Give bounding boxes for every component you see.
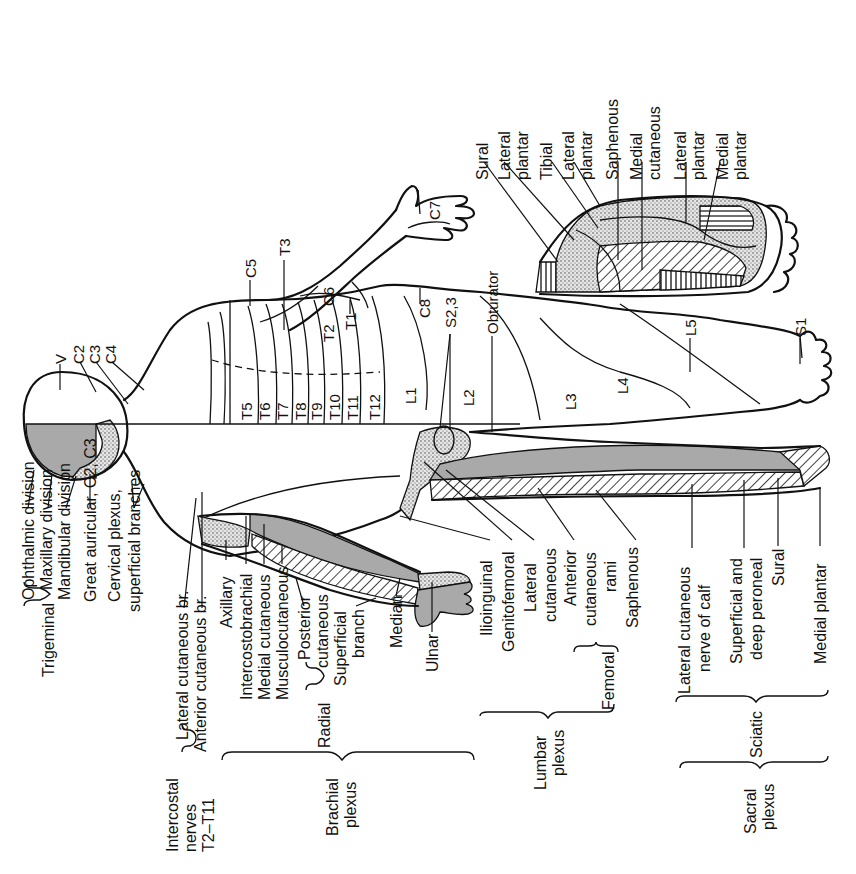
dermatome-label-t11: T11 — [344, 395, 361, 420]
label-intercostobrachial: Intercostobrachial — [238, 574, 255, 700]
dermatome-label-t8: T8 — [292, 402, 309, 420]
label-anterior-cutaneous-rami-3: rami — [602, 561, 619, 592]
dermatome-label-l3: L3 — [562, 393, 579, 410]
label-median: Median — [388, 596, 405, 648]
label-intercostal-2: nerves — [182, 804, 199, 852]
label-superficial-deep-peroneal-2: deep peroneal — [748, 558, 765, 660]
foot-label-tibial: Tibial — [538, 142, 555, 180]
dermatome-label-l1: L1 — [402, 387, 419, 404]
dermatome-label-l2: L2 — [460, 389, 477, 406]
label-ulnar: Ulnar — [424, 633, 441, 672]
lumbar-plexus-brace — [480, 704, 614, 718]
foot-label-medial-plantar-a: Medial — [714, 133, 731, 180]
label-sacral-1: Sacral — [742, 789, 759, 834]
dermatome-label-l5: L5 — [682, 319, 699, 336]
foot-label-medial-cutaneous-a: Medial — [628, 133, 645, 180]
label-saphenous: Saphenous — [624, 547, 641, 628]
foot-label-lateral-plantar-3b: plantar — [690, 130, 707, 180]
brachial-plexus-brace — [222, 752, 474, 760]
label-maxillary-division: Maxillary division — [38, 469, 55, 590]
label-lateral-cutaneous-calf-1: Lateral cutaneous — [676, 567, 693, 694]
label-great-auricular: Great auricular, C2, C3 — [82, 438, 99, 602]
dermatome-label-c2: C2 — [70, 345, 87, 364]
foot-label-saphenous: Saphenous — [604, 99, 621, 180]
dermatome-label-s1: S1 — [792, 318, 809, 336]
foot-labels: Sural Lateral plantar Tibial Lateral pla… — [474, 99, 749, 180]
label-musculocutaneous: Musculocutaneous — [274, 567, 291, 700]
foot-label-lateral-plantar-2a: Lateral — [560, 131, 577, 180]
label-lumbar-2: plexus — [550, 730, 567, 776]
dermatome-diagram: V C2 C3 C4 C5 T3 C6 T2 T1 C7 C8 T5 T6 T7… — [0, 0, 856, 874]
label-ophthalmic-division: Ophthalmic division — [20, 461, 37, 600]
dermatome-label-v: V — [52, 354, 69, 364]
dermatome-label-t9: T9 — [308, 402, 325, 420]
foot-label-medial-cutaneous-b: cutaneous — [646, 106, 663, 180]
foot-label-medial-plantar-b: plantar — [732, 130, 749, 180]
dermatome-label-c7: C7 — [426, 201, 443, 220]
foot-label-lateral-plantar-1b: plantar — [514, 130, 531, 180]
label-medial-plantar: Medial plantar — [812, 563, 829, 664]
label-cervical-plexus-1: Cervical plexus, — [106, 489, 123, 602]
foot-label-lateral-plantar-3a: Lateral — [672, 131, 689, 180]
label-anterior-cutaneous-rami-1: Anterior — [562, 549, 579, 606]
label-mandibular-division: Mandibular division — [56, 463, 73, 600]
label-medial-cutaneous: Medial cutaneous — [256, 575, 273, 700]
dermatome-label-l4: L4 — [614, 377, 631, 394]
label-superficial-deep-peroneal-1: Superficial and — [728, 558, 745, 664]
label-trigeminal: Trigeminal — [40, 603, 57, 677]
label-lateral-cutaneous-calf-2: nerve of calf — [696, 584, 713, 672]
dermatome-label-c3: C3 — [86, 345, 103, 364]
label-anterior-cutaneous-br: Anterior cutaneous br. — [192, 595, 209, 752]
foot-plantar-detail — [484, 162, 798, 296]
label-superficial-branch-1: Superficial — [332, 611, 349, 686]
label-radial: Radial — [316, 703, 333, 748]
label-superficial-branch-2: branch — [350, 609, 367, 658]
label-genitofemoral: Genitofemoral — [500, 552, 517, 653]
label-lumbar-1: Lumbar — [532, 735, 549, 790]
dermatome-label-t6: T6 — [256, 402, 273, 420]
label-sacral-2: plexus — [760, 784, 777, 830]
axillary-region — [198, 516, 250, 547]
dermatome-label-t10: T10 — [326, 394, 343, 420]
label-posterior-cutaneous-2: cutaneous — [314, 594, 331, 668]
label-lateral-cutaneous-1: Lateral — [522, 563, 539, 612]
nerve-labels: Trigeminal Ophthalmic division Maxillary… — [20, 438, 829, 852]
dermatome-label-t3: T3 — [276, 238, 293, 256]
dermatome-label-c8: C8 — [416, 299, 433, 318]
label-brachial-2: plexus — [342, 782, 359, 828]
dermatome-label-c6: C6 — [320, 287, 337, 306]
dermatome-label-t2: T2 — [320, 324, 337, 342]
sciatic-brace — [676, 690, 828, 702]
label-lateral-cutaneous-br: Lateral cutaneous br. — [174, 591, 191, 740]
dermatome-label-t1: T1 — [342, 312, 359, 330]
dermatome-label-c5: C5 — [242, 259, 259, 278]
label-ilioinguinal: Ilioinguinal — [478, 560, 495, 636]
dermatome-label-t7: T7 — [274, 402, 291, 420]
hand-median-region — [415, 582, 473, 626]
dermatome-label-t5: T5 — [238, 402, 255, 420]
dermatome-label-c4: C4 — [102, 345, 119, 364]
label-axillary: Axillary — [218, 576, 235, 628]
dermatome-label-t12: T12 — [366, 394, 383, 420]
dermatome-label-obturator: Obturator — [484, 271, 501, 334]
label-anterior-cutaneous-rami-2: cutaneous — [582, 552, 599, 626]
label-lateral-cutaneous-2: cutaneous — [542, 548, 559, 622]
foot-label-lateral-plantar-2b: plantar — [578, 130, 595, 180]
label-femoral: Femoral — [600, 651, 617, 710]
label-sural: Sural — [770, 549, 787, 586]
foot-label-sural: Sural — [474, 143, 491, 180]
foot-label-lateral-plantar-1a: Lateral — [496, 131, 513, 180]
label-posterior-cutaneous-1: Posterior — [296, 595, 313, 660]
label-brachial-1: Brachial — [324, 778, 341, 836]
femoral-brace — [574, 642, 618, 652]
dermatome-label-s23: S2,3 — [442, 297, 459, 328]
label-intercostal-1: Intercostal — [164, 778, 181, 852]
label-sciatic: Sciatic — [748, 711, 765, 758]
label-intercostal-3: T2–T11 — [200, 798, 217, 852]
